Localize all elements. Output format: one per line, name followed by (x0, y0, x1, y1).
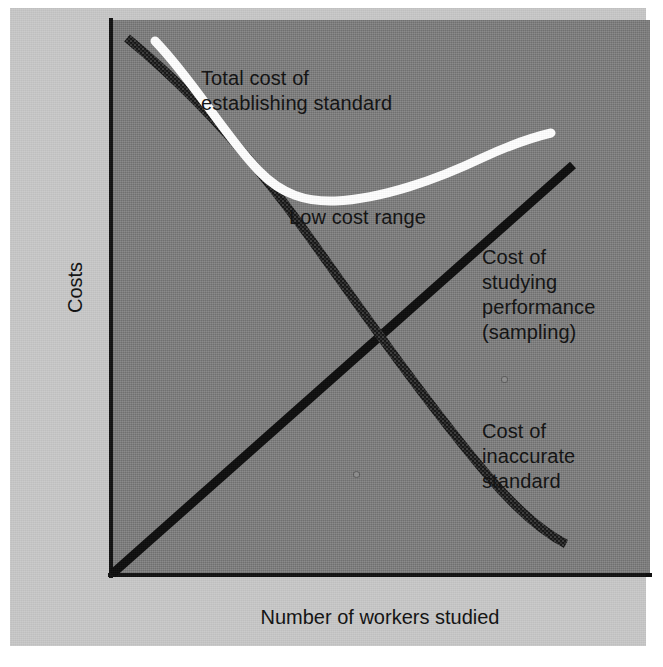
figure-root: Total cost of establishing standard Low … (0, 0, 663, 667)
annotation-cost-of-studying-performance: Cost of studying performance (sampling) (482, 245, 595, 345)
scan-speck (354, 472, 359, 477)
annotation-total-cost: Total cost of establishing standard (201, 66, 392, 116)
annotation-cost-of-inaccurate-standard: Cost of inaccurate standard (482, 419, 575, 494)
x-axis-title: Number of workers studied (110, 606, 650, 629)
figure-card: Total cost of establishing standard Low … (10, 8, 646, 646)
scan-speck (502, 377, 507, 382)
annotation-low-cost-range: Low cost range (289, 205, 426, 230)
y-axis-title: Costs (64, 218, 87, 358)
